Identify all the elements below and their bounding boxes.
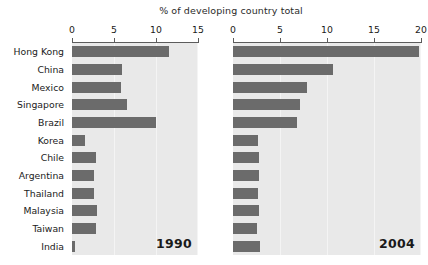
bar-row	[233, 114, 421, 132]
axis-tick	[374, 38, 375, 42]
category-label: Mexico	[0, 78, 68, 96]
bar-row	[233, 220, 421, 238]
chart-panel-2004: 2004	[233, 43, 421, 255]
bar-row	[72, 78, 198, 96]
category-label: Thailand	[0, 184, 68, 202]
axis-tick	[280, 38, 281, 42]
axis-tick-label: 5	[111, 24, 117, 35]
category-label: Chile	[0, 149, 68, 167]
axis-tick-label: 10	[150, 24, 162, 35]
bar-row	[72, 131, 198, 149]
bar-row	[72, 43, 198, 61]
axis-tick-label: 0	[69, 24, 75, 35]
bar	[233, 117, 297, 128]
bar	[72, 152, 96, 163]
category-label: Argentina	[0, 167, 68, 185]
bar	[72, 188, 94, 199]
bar-row	[72, 220, 198, 238]
bar	[233, 46, 419, 57]
axis-tick	[156, 38, 157, 42]
category-label: Taiwan	[0, 220, 68, 238]
category-label: Korea	[0, 131, 68, 149]
category-label: Singapore	[0, 96, 68, 114]
bar-row	[233, 184, 421, 202]
bar	[233, 135, 258, 146]
axis-tick-label: 15	[192, 24, 204, 35]
bar	[72, 46, 169, 57]
axis-tick-label: 0	[230, 24, 236, 35]
bar-row	[72, 96, 198, 114]
bar	[233, 241, 260, 252]
axis-tick-label: 5	[277, 24, 283, 35]
axis-tick-label: 10	[321, 24, 333, 35]
bar-row	[233, 131, 421, 149]
bar	[72, 99, 127, 110]
bar-row	[72, 184, 198, 202]
bar	[72, 205, 97, 216]
bar-row	[72, 61, 198, 79]
bar-row	[233, 202, 421, 220]
bar	[72, 64, 122, 75]
bar	[72, 223, 96, 234]
panel-year-label-1990: 1990	[156, 236, 192, 251]
category-label: China	[0, 61, 68, 79]
bar	[72, 170, 94, 181]
category-label: Hong Kong	[0, 43, 68, 61]
axis-tick	[327, 38, 328, 42]
category-label: Malaysia	[0, 202, 68, 220]
bar	[233, 82, 307, 93]
bar	[233, 64, 333, 75]
bar-row	[72, 149, 198, 167]
panel-year-label-2004: 2004	[379, 236, 415, 251]
bar-row	[233, 61, 421, 79]
bar-row	[72, 167, 198, 185]
axis-tick	[114, 38, 115, 42]
chart-figure: % of developing country total Hong KongC…	[0, 0, 428, 265]
chart-title: % of developing country total	[0, 5, 428, 16]
bar-row	[233, 78, 421, 96]
axis-tick	[233, 38, 234, 42]
bar-row	[233, 43, 421, 61]
bar	[233, 99, 300, 110]
bar-row	[233, 96, 421, 114]
axis-tick	[72, 38, 73, 42]
bar-row	[72, 202, 198, 220]
bar	[72, 135, 85, 146]
axis-tick	[198, 38, 199, 42]
bar	[233, 223, 257, 234]
bar-row	[233, 149, 421, 167]
category-axis-labels: Hong KongChinaMexicoSingaporeBrazilKorea…	[0, 43, 68, 255]
bar	[233, 152, 259, 163]
axis-tick-label: 15	[368, 24, 380, 35]
bar	[233, 188, 258, 199]
bar-row	[72, 114, 198, 132]
bar	[233, 170, 259, 181]
category-label: India	[0, 237, 68, 255]
chart-panel-1990: 1990	[72, 43, 198, 255]
axis-tick	[421, 38, 422, 42]
bar	[233, 205, 259, 216]
axis-tick-label: 20	[415, 24, 427, 35]
bar-rows-2004	[233, 43, 421, 255]
bar	[72, 82, 121, 93]
category-label: Brazil	[0, 114, 68, 132]
bar	[72, 241, 75, 252]
bar-row	[233, 167, 421, 185]
bar	[72, 117, 156, 128]
bar-rows-1990	[72, 43, 198, 255]
